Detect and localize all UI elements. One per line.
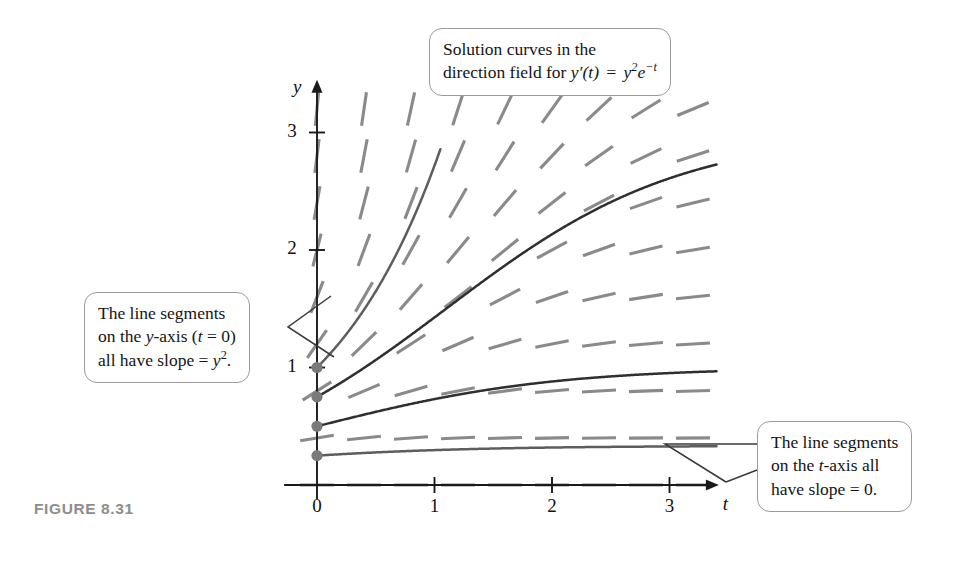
slope-segment bbox=[442, 337, 473, 351]
slope-segment bbox=[451, 140, 464, 171]
slope-segment bbox=[453, 93, 463, 125]
slope-segment bbox=[582, 342, 616, 346]
callout-top-line2: direction field for y′(t) = y2e−t bbox=[443, 61, 657, 84]
slope-segment bbox=[496, 142, 514, 171]
slope-segment bbox=[407, 92, 414, 125]
callout-left-line3: all have slope = y2. bbox=[98, 349, 236, 372]
x-axis-name: t bbox=[723, 493, 728, 515]
slope-segment bbox=[535, 341, 568, 348]
slope-segment bbox=[358, 234, 370, 266]
slope-segment bbox=[542, 95, 562, 123]
slope-segment bbox=[445, 287, 472, 308]
slope-segment bbox=[582, 390, 616, 392]
callout-right-line1: The line segments bbox=[771, 431, 898, 454]
solution-curves-callout: Solution curves in the direction field f… bbox=[429, 28, 671, 96]
y-axis-arrowhead bbox=[312, 80, 323, 93]
curve-y0-0.50 bbox=[317, 371, 717, 426]
slope-segment bbox=[494, 190, 516, 216]
initial-condition-point bbox=[311, 421, 322, 432]
slope-segment bbox=[450, 188, 467, 217]
slope-segment bbox=[447, 237, 469, 263]
slope-segment bbox=[676, 391, 710, 392]
slope-segment bbox=[536, 291, 568, 302]
callout-top-line2-prefix: direction field for bbox=[443, 62, 571, 82]
slope-segment bbox=[629, 390, 663, 391]
axes-layer bbox=[284, 80, 719, 499]
slope-segment bbox=[488, 437, 522, 438]
t-axis-arrowhead bbox=[706, 480, 719, 491]
slope-segment bbox=[406, 140, 415, 173]
t-axis-slope-callout: The line segments on the t-axis all have… bbox=[757, 421, 912, 512]
slope-segment bbox=[489, 339, 522, 349]
slope-segment bbox=[629, 246, 662, 254]
solution-curves bbox=[317, 149, 717, 455]
slope-segment bbox=[361, 139, 367, 172]
y-tick-label: 2 bbox=[279, 237, 305, 259]
slope-segment bbox=[362, 92, 367, 126]
callout-top-line1: Solution curves in the bbox=[443, 38, 657, 61]
slope-segment bbox=[490, 289, 520, 305]
slope-segment bbox=[676, 295, 710, 299]
slope-segment bbox=[348, 384, 379, 397]
slope-field-segments bbox=[300, 92, 710, 485]
right-callout-leader bbox=[665, 444, 757, 482]
slope-segment bbox=[539, 193, 566, 214]
slope-segment bbox=[352, 332, 376, 356]
y-tick-label: 1 bbox=[279, 355, 305, 377]
slope-segment bbox=[394, 437, 428, 439]
slope-segment bbox=[676, 199, 709, 207]
slope-segment bbox=[582, 438, 616, 439]
slope-segment bbox=[537, 242, 567, 258]
slope-segment bbox=[347, 436, 381, 440]
curve-y0-1.00 bbox=[317, 149, 440, 367]
slope-segment bbox=[400, 284, 422, 310]
slope-segment bbox=[395, 386, 428, 395]
slope-segment bbox=[629, 294, 663, 299]
slope-segment bbox=[676, 343, 710, 345]
y-axis-name: y bbox=[293, 76, 301, 98]
y-axis-slope-callout: The line segments on the y-axis (t = 0) … bbox=[84, 292, 250, 383]
callout-left-line2: on the y-axis (t = 0) bbox=[98, 325, 236, 348]
slope-segment bbox=[492, 239, 518, 260]
slope-segment bbox=[355, 282, 372, 311]
callout-top-equation: y′(t) = y2e−t bbox=[571, 62, 657, 82]
slope-segment bbox=[583, 244, 615, 256]
slope-segment bbox=[403, 235, 420, 265]
slope-segment bbox=[629, 343, 663, 346]
slope-segment bbox=[498, 94, 513, 125]
callout-left-line1: The line segments bbox=[98, 302, 236, 325]
left-callout-leader bbox=[288, 296, 334, 357]
slope-segment bbox=[540, 144, 563, 169]
callout-right-line2: on the t-axis all bbox=[771, 454, 898, 477]
x-tick-label: 2 bbox=[536, 495, 568, 517]
slope-segment bbox=[535, 438, 569, 439]
slope-segment bbox=[360, 187, 369, 220]
curve-y0-0.25 bbox=[317, 446, 717, 455]
slope-segment bbox=[397, 335, 426, 353]
figure-container: 0123123ty Solution curves in the directi… bbox=[0, 0, 968, 570]
initial-condition-point bbox=[311, 362, 322, 373]
slope-segment bbox=[677, 102, 708, 115]
x-tick-label: 0 bbox=[301, 495, 333, 517]
slope-segment bbox=[585, 146, 613, 166]
slope-segment bbox=[582, 293, 615, 301]
slope-segment bbox=[587, 97, 612, 120]
callout-right-line3: have slope = 0. bbox=[771, 478, 898, 501]
slope-segment bbox=[630, 197, 662, 208]
slope-segment bbox=[441, 437, 475, 439]
x-tick-label: 1 bbox=[419, 495, 451, 517]
figure-caption: FIGURE 8.31 bbox=[34, 500, 134, 518]
slope-segment bbox=[677, 151, 709, 161]
slope-segment bbox=[535, 390, 569, 393]
y-tick-label: 3 bbox=[279, 120, 305, 142]
slope-segment bbox=[676, 247, 710, 252]
x-tick-label: 3 bbox=[654, 495, 686, 517]
initial-condition-point bbox=[311, 450, 322, 461]
right-callout-leader-2 bbox=[726, 470, 757, 482]
slope-segment bbox=[631, 149, 662, 164]
slope-segment bbox=[632, 100, 661, 118]
initial-condition-point bbox=[311, 391, 322, 402]
